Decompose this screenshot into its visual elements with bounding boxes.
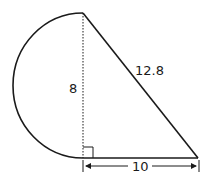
diagram-canvas: 8 12.8 10 bbox=[0, 0, 210, 187]
hypotenuse-label: 12.8 bbox=[135, 63, 164, 78]
right-angle-marker bbox=[83, 147, 93, 158]
height-label: 8 bbox=[69, 81, 77, 96]
base-label: 10 bbox=[132, 159, 149, 174]
arrowhead-left-icon bbox=[85, 163, 91, 169]
hypotenuse-line bbox=[83, 13, 198, 158]
arrowhead-right-icon bbox=[191, 163, 197, 169]
composite-figure: 8 12.8 10 bbox=[0, 0, 210, 187]
